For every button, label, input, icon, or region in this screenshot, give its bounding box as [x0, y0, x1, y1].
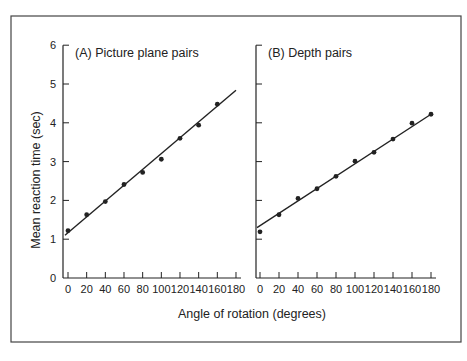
figure: 0123456020406080100120140160180(A) Pictu…: [0, 0, 467, 361]
chart-svg: 0123456020406080100120140160180(A) Pictu…: [0, 0, 467, 361]
data-point: [429, 112, 434, 117]
x-tick-label: 120: [365, 283, 383, 295]
x-tick-label: 160: [208, 283, 226, 295]
x-tick-label: 100: [346, 283, 364, 295]
data-point: [66, 228, 71, 233]
x-tick-label: 140: [189, 283, 207, 295]
data-point: [140, 170, 145, 175]
x-tick-label: 0: [65, 283, 71, 295]
data-point: [315, 186, 320, 191]
x-tick-label: 60: [311, 283, 323, 295]
x-tick-label: 180: [227, 283, 245, 295]
y-tick-label: 1: [50, 233, 56, 245]
y-tick-label: 3: [50, 156, 56, 168]
data-point: [103, 199, 108, 204]
x-tick-label: 180: [422, 283, 440, 295]
x-axis-title: Angle of rotation (degrees): [178, 307, 326, 321]
x-tick-label: 120: [171, 283, 189, 295]
data-point: [353, 159, 358, 164]
panel-a-picture-plane: 0123456020406080100120140160180(A) Pictu…: [50, 39, 245, 295]
data-point: [258, 229, 263, 234]
regression-line: [65, 90, 236, 235]
data-point: [277, 212, 282, 217]
panel-b-depth: 020406080100120140160180(B) Depth pairs: [256, 45, 440, 295]
data-point: [196, 123, 201, 128]
data-point: [334, 174, 339, 179]
x-tick-label: 80: [330, 283, 342, 295]
regression-line: [257, 114, 431, 227]
data-point: [391, 137, 396, 142]
x-tick-label: 80: [137, 283, 149, 295]
x-tick-label: 20: [273, 283, 285, 295]
x-tick-label: 160: [403, 283, 421, 295]
data-point: [159, 157, 164, 162]
y-tick-label: 6: [50, 39, 56, 51]
y-tick-label: 5: [50, 78, 56, 90]
panel-title: (A) Picture plane pairs: [75, 46, 199, 60]
x-tick-label: 40: [99, 283, 111, 295]
y-tick-label: 2: [50, 194, 56, 206]
y-tick-label: 4: [50, 117, 56, 129]
data-point: [84, 212, 89, 217]
x-tick-label: 140: [384, 283, 402, 295]
x-tick-label: 20: [81, 283, 93, 295]
data-point: [410, 121, 415, 126]
data-point: [215, 102, 220, 107]
x-tick-label: 40: [292, 283, 304, 295]
panel-title: (B) Depth pairs: [268, 46, 352, 60]
data-point: [372, 150, 377, 155]
x-tick-label: 100: [152, 283, 170, 295]
data-point: [296, 196, 301, 201]
x-tick-label: 60: [118, 283, 130, 295]
x-tick-label: 0: [257, 283, 263, 295]
data-point: [178, 136, 183, 141]
data-point: [122, 182, 127, 187]
y-tick-label: 0: [50, 272, 56, 284]
y-axis-title: Mean reaction time (sec): [29, 111, 43, 249]
